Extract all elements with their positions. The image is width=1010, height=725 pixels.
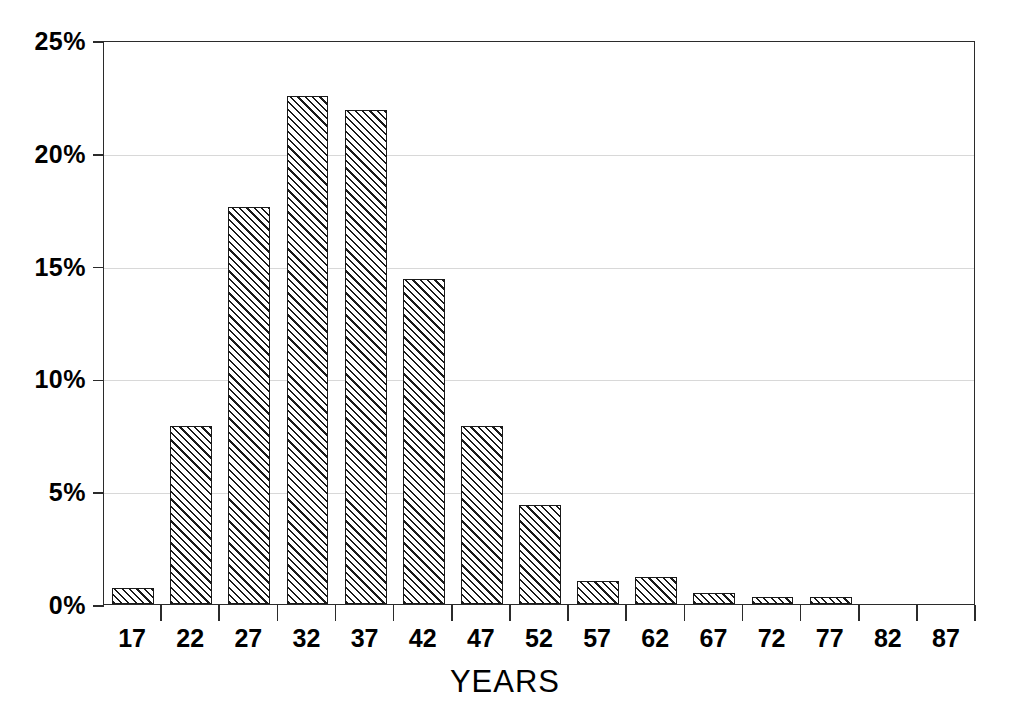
x-axis-tick-mark: [567, 605, 569, 621]
x-axis-tick-mark: [858, 605, 860, 621]
bar: [228, 207, 270, 604]
x-axis-tick-label: 47: [467, 624, 495, 653]
x-axis-tick-label: 72: [758, 624, 786, 653]
bar: [810, 597, 852, 604]
bar: [752, 597, 794, 604]
x-axis-tick-mark: [218, 605, 220, 621]
bar: [461, 426, 503, 604]
y-axis-tick-label: 15%: [0, 252, 86, 281]
histogram-figure: 0%5%10%15%20%25% 17222732374247525762677…: [0, 0, 1010, 725]
x-axis-tick-label: 77: [816, 624, 844, 653]
y-axis-tick-mark: [93, 154, 104, 156]
plot-area: [103, 41, 975, 605]
y-axis-tick-label: 25%: [0, 27, 86, 56]
bar: [170, 426, 212, 604]
x-axis-tick-mark: [742, 605, 744, 621]
x-axis-tick-label: 87: [932, 624, 960, 653]
x-axis-tick-label: 37: [351, 624, 379, 653]
x-axis-tick-label: 67: [699, 624, 727, 653]
y-axis-tick-mark: [93, 41, 104, 43]
bar: [577, 581, 619, 604]
x-axis-tick-label: 52: [525, 624, 553, 653]
x-axis-tick-mark: [160, 605, 162, 621]
x-axis-tick-label: 82: [874, 624, 902, 653]
y-axis-tick-label: 20%: [0, 139, 86, 168]
bar: [693, 593, 735, 604]
x-axis-title: YEARS: [0, 664, 1010, 700]
x-axis-tick-label: 27: [234, 624, 262, 653]
x-axis-tick-label: 42: [409, 624, 437, 653]
y-axis-tick-mark: [93, 492, 104, 494]
x-axis-tick-mark: [277, 605, 279, 621]
x-axis-tick-marks: [103, 605, 975, 621]
x-axis-tick-label: 32: [293, 624, 321, 653]
y-axis-tick-mark: [93, 380, 104, 382]
y-axis-tick-label: 10%: [0, 365, 86, 394]
x-axis-tick-mark: [393, 605, 395, 621]
x-axis-tick-mark: [509, 605, 511, 621]
x-axis-tick-mark: [916, 605, 918, 621]
x-axis-tick-mark: [451, 605, 453, 621]
x-axis-tick-label: 17: [118, 624, 146, 653]
y-axis-tick-labels: 0%5%10%15%20%25%: [0, 0, 86, 725]
bar: [345, 110, 387, 604]
x-axis-tick-mark: [974, 605, 976, 621]
bar: [287, 96, 329, 604]
x-axis-tick-mark: [684, 605, 686, 621]
y-axis-tick-label: 0%: [0, 591, 86, 620]
bar: [635, 577, 677, 604]
x-axis-tick-mark: [625, 605, 627, 621]
bar: [403, 279, 445, 604]
x-axis-tick-label: 62: [641, 624, 669, 653]
x-axis-tick-mark: [800, 605, 802, 621]
bar: [112, 588, 154, 604]
bar: [519, 505, 561, 604]
x-axis-tick-labels: 172227323742475257626772778287: [103, 624, 975, 664]
x-axis-tick-label: 22: [176, 624, 204, 653]
y-axis-tick-mark: [93, 267, 104, 269]
bar-series: [104, 42, 974, 604]
y-axis-tick-label: 5%: [0, 478, 86, 507]
x-axis-tick-label: 57: [583, 624, 611, 653]
x-axis-tick-mark: [335, 605, 337, 621]
